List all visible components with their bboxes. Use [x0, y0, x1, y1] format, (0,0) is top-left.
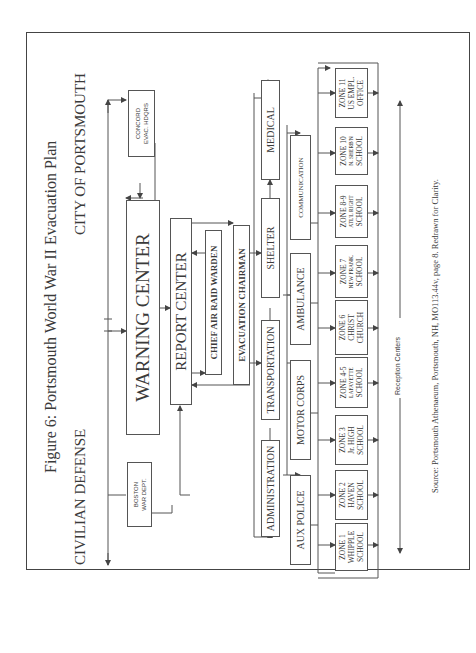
zone-8-9-box: ZONE 8-9ATL'L RIGHTSCHOOL: [335, 185, 368, 238]
zone-6-box: ZONE 6CHRISTCHURCH: [335, 300, 368, 355]
medical-box: MEDICAL: [261, 80, 280, 180]
zone-3-box: ZONE 3Jr. HIGHSCHOOL: [335, 415, 368, 465]
reception-centers-label: Reception Centers: [394, 337, 401, 395]
zone-10-box: ZONE 10N. SHERB'NSCHOOL: [335, 127, 368, 175]
civilian-defense-heading: CIVILIAN DEFENSE: [72, 429, 89, 565]
administration-box: ADMINISTRATION: [261, 440, 280, 537]
aux-police-box: AUX POLICE: [290, 475, 311, 565]
warning-center-box: WARNING CENTER: [126, 200, 160, 435]
zone-1-box: ZONE 1WHIPPLESCHOOL: [335, 523, 368, 571]
chief-air-raid-warden-box: CHIEF AIR RAID WARDEN: [205, 230, 222, 375]
zone-11-box: ZONE 11US EMPL.OFFICE: [335, 68, 368, 118]
figure-title: Figure 6: Portsmouth World War II Evacua…: [42, 173, 60, 473]
motor-corps-box: MOTOR CORPS: [290, 360, 311, 460]
boston-war-dept-box: BOSTON WAR DEPT.: [127, 462, 152, 527]
source-note: Source: Portsmouth Athenaeum, Portsmouth…: [430, 179, 440, 493]
zone-4-5-box: ZONE 4-5LAFAYETTESCHOOL: [335, 357, 368, 408]
communication-box: COMMUNICATION: [290, 135, 311, 240]
concord-evac-hdqrs-box: CONCORD EVAC. HDQRS: [128, 90, 155, 157]
shelter-box: SHELTER: [261, 198, 280, 298]
evacuation-chairman-box: EVACUATION CHAIRMAN: [233, 225, 250, 385]
city-of-portsmouth-heading: CITY OF PORTSMOUTH: [72, 73, 89, 235]
ambulance-box: AMBULANCE: [290, 253, 311, 345]
zone-2-box: ZONE 2HAVENSCHOOL: [335, 470, 368, 520]
evacuation-plan-diagram: Figure 6: Portsmouth World War II Evacua…: [0, 0, 476, 653]
transportation-box: TRANSPORTATION: [261, 320, 280, 420]
report-center-box: REPORT CENTER: [170, 218, 192, 405]
zone-7-box: ZONE 7NEW FRANK.SCHOOL: [335, 245, 368, 298]
